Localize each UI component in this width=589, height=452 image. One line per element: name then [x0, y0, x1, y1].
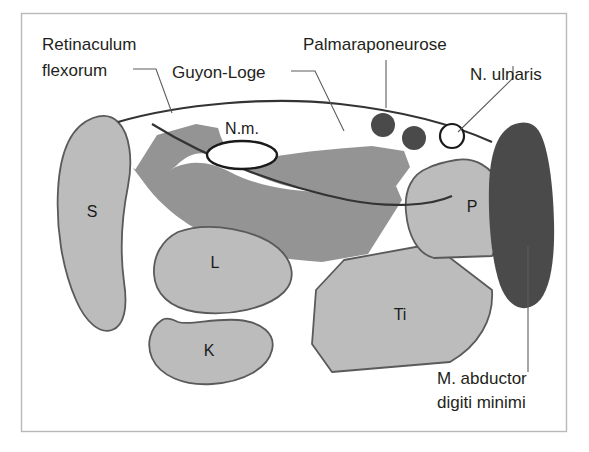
label-abductor-line1: M. abductor [437, 369, 527, 388]
structure-label-nm: N.m. [225, 120, 259, 137]
m-abductor-digiti-minimi-shape [489, 123, 554, 309]
label-n-ulnaris: N. ulnaris [470, 65, 542, 84]
structure-label-l: L [211, 254, 220, 271]
label-guyon-loge: Guyon-Loge [172, 63, 266, 82]
label-retinaculum-line1: Retinaculum [42, 35, 137, 54]
cross-section-diagram: Retinaculum flexorum Guyon-Loge Palmarap… [0, 0, 589, 452]
os-scaphoideum-shape [58, 116, 131, 331]
flexor-tendon-dot-2 [402, 126, 426, 150]
label-abductor-line2: digiti minimi [437, 393, 526, 412]
label-palmaraponeurose: Palmaraponeurose [303, 35, 447, 54]
nervus-medianus-ellipse [207, 141, 277, 169]
retinaculum-leader-line [133, 69, 172, 113]
n-ulnaris-circle [440, 124, 464, 148]
structure-label-ti: Ti [394, 306, 407, 323]
label-retinaculum-line2: flexorum [42, 61, 107, 80]
structure-label-p: P [467, 198, 478, 215]
anatomical-figure: Retinaculum flexorum Guyon-Loge Palmarap… [0, 0, 589, 452]
flexor-tendon-dot-1 [371, 113, 395, 137]
structure-label-s: S [87, 203, 98, 220]
structure-label-k: K [204, 342, 215, 359]
